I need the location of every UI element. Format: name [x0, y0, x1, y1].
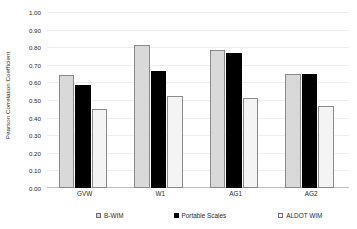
y-axis-tick-label: 0.20	[29, 149, 41, 156]
bars-layer	[47, 12, 349, 188]
y-axis-tick-label: 0.10	[29, 167, 41, 174]
y-axis-tick-label: 0.40	[29, 114, 41, 121]
plot-area	[47, 12, 349, 188]
bar	[243, 98, 259, 188]
bar-chart: Pearson Correlation Coefficient 0.000.10…	[0, 0, 357, 229]
y-axis-tick-label: 0.50	[29, 97, 41, 104]
y-axis-title: Pearson Correlation Coefficient	[0, 0, 16, 190]
bar	[134, 45, 150, 188]
legend-label: B-WIM	[104, 212, 124, 219]
legend-item[interactable]: B-WIM	[96, 212, 124, 219]
bar	[226, 53, 242, 188]
x-axis-tick-label: GVW	[77, 190, 92, 197]
y-axis-tick-labels: 0.000.100.200.300.400.500.600.700.800.90…	[16, 12, 44, 188]
bar-group	[59, 12, 108, 188]
bar	[210, 50, 226, 188]
legend-item[interactable]: Portable Scales	[174, 212, 227, 219]
y-axis-tick-label: 0.80	[29, 44, 41, 51]
bar	[285, 74, 301, 188]
y-axis-tick-label: 0.90	[29, 26, 41, 33]
bar-group	[285, 12, 334, 188]
y-axis-tick-label: 0.70	[29, 61, 41, 68]
x-axis-tick-label: AG2	[305, 190, 318, 197]
x-axis-tick-label: AG1	[229, 190, 242, 197]
legend-swatch-icon	[278, 213, 283, 218]
y-axis-tick-label: 0.60	[29, 79, 41, 86]
y-axis-tick-label: 0.00	[29, 185, 41, 192]
bar	[75, 85, 91, 188]
legend-label: Portable Scales	[182, 212, 227, 219]
legend-item[interactable]: ALDOT WIM	[278, 212, 322, 219]
y-axis-title-label: Pearson Correlation Coefficient	[5, 51, 12, 138]
legend-swatch-icon	[96, 213, 101, 218]
bar	[59, 75, 75, 188]
bar	[167, 96, 183, 188]
y-axis-tick-label: 1.00	[29, 9, 41, 16]
bar-group	[134, 12, 183, 188]
bar	[302, 74, 318, 188]
bar	[92, 109, 108, 188]
x-axis-tick-labels: GVWW1AG1AG2	[47, 190, 349, 202]
bar	[151, 71, 167, 188]
legend-swatch-icon	[174, 213, 179, 218]
bar	[318, 106, 334, 188]
chart-legend: B-WIMPortable ScalesALDOT WIM	[47, 208, 349, 222]
y-axis-tick-label: 0.30	[29, 132, 41, 139]
x-axis-tick-label: W1	[155, 190, 165, 197]
legend-label: ALDOT WIM	[286, 212, 322, 219]
bar-group	[210, 12, 259, 188]
